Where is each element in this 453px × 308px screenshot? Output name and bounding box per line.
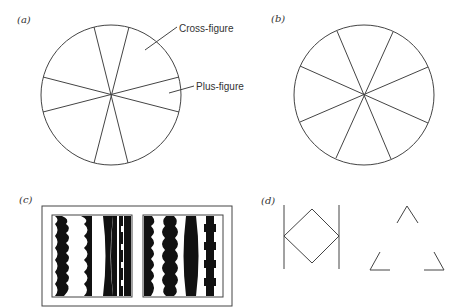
pattern-panel-left <box>52 215 132 297</box>
sector-lines-b <box>300 31 428 159</box>
outer-frame-c <box>42 206 232 306</box>
plus-figure-leader-line <box>169 86 194 93</box>
figure-canvas: (a) Cross-figure Plus-figure (b) (c) <box>0 0 453 308</box>
illusory-triangle <box>370 206 444 270</box>
panel-d: (d) <box>261 195 444 270</box>
panel-c: (c) <box>19 194 232 306</box>
panel-c-label: (c) <box>19 194 33 205</box>
panel-b: (b) <box>271 13 434 165</box>
panel-a: (a) Cross-figure Plus-figure <box>17 14 244 165</box>
panel-a-label: (a) <box>17 14 31 25</box>
diamond-between-bars <box>284 205 339 269</box>
panel-d-label: (d) <box>261 195 275 206</box>
plus-figure-label: Plus-figure <box>196 81 244 92</box>
cross-figure-label: Cross-figure <box>179 23 234 34</box>
panel-b-label: (b) <box>271 13 285 24</box>
pattern-panel-right <box>143 215 223 297</box>
sector-lines-a <box>43 27 179 163</box>
